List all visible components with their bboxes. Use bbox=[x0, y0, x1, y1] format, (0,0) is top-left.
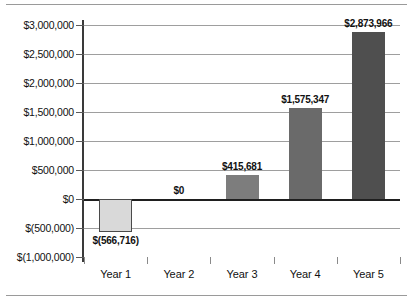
x-axis-tick bbox=[400, 257, 401, 264]
x-axis-ticks bbox=[84, 257, 402, 264]
y-axis-tick bbox=[76, 25, 84, 26]
bar-value-label: $1,575,347 bbox=[281, 94, 329, 105]
bar-value-label: $2,873,966 bbox=[344, 18, 392, 29]
x-axis-tick bbox=[337, 257, 338, 264]
y-axis-tick-label: $500,000 bbox=[0, 164, 74, 176]
y-axis-tick-label: $2,500,000 bbox=[0, 48, 74, 60]
x-axis-category-label: Year 5 bbox=[353, 268, 384, 280]
y-axis-tick bbox=[76, 199, 84, 200]
bar-value-label: $0 bbox=[173, 185, 184, 196]
x-axis-category-label: Year 2 bbox=[163, 268, 194, 280]
y-axis-tick bbox=[76, 112, 84, 113]
chart-figure: $3,000,000$2,500,000$2,000,000$1,500,000… bbox=[0, 0, 413, 302]
bar-value-label: $415,681 bbox=[222, 161, 262, 172]
y-axis-tick bbox=[76, 54, 84, 55]
y-axis-tick bbox=[76, 83, 84, 84]
y-axis-tick-label: $1,500,000 bbox=[0, 106, 74, 118]
y-axis-tick-label: $1,000,000 bbox=[0, 135, 74, 147]
x-axis-category-label: Year 4 bbox=[290, 268, 321, 280]
y-axis-tick-label: $3,000,000 bbox=[0, 19, 74, 31]
bar-value-label: $(566,716) bbox=[92, 235, 138, 246]
bar bbox=[289, 108, 322, 199]
x-axis-category-label: Year 3 bbox=[227, 268, 258, 280]
y-axis-tick bbox=[76, 141, 84, 142]
y-axis-tick-label: $(500,000) bbox=[0, 222, 74, 234]
y-axis-tick bbox=[76, 170, 84, 171]
y-axis-tick bbox=[76, 257, 84, 258]
x-axis-tick bbox=[274, 257, 275, 264]
x-axis-tick bbox=[210, 257, 211, 264]
y-axis-tick-labels: $3,000,000$2,500,000$2,000,000$1,500,000… bbox=[0, 0, 74, 302]
y-axis-tick-label: $(1,000,000) bbox=[0, 251, 74, 263]
y-axis-tick-label: $2,000,000 bbox=[0, 77, 74, 89]
y-axis-tick bbox=[76, 228, 84, 229]
bar bbox=[99, 199, 132, 232]
bar bbox=[352, 32, 385, 199]
x-axis-tick bbox=[147, 257, 148, 264]
x-axis-category-label: Year 1 bbox=[100, 268, 131, 280]
x-axis-tick bbox=[84, 257, 85, 264]
y-axis-tick-label: $0 bbox=[0, 193, 74, 205]
plot-area: $(566,716)$0$415,681$1,575,347$2,873,966 bbox=[84, 25, 400, 257]
x-axis-category-labels: Year 1Year 2Year 3Year 4Year 5 bbox=[84, 268, 400, 286]
bar bbox=[226, 175, 259, 199]
